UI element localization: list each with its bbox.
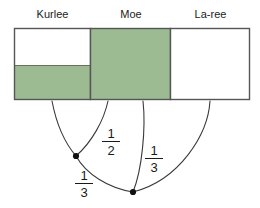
- kurlee-shaded-part: [15, 66, 91, 100]
- junction-node-left: [73, 153, 79, 159]
- fraction-divider-line: [75, 183, 93, 184]
- fraction-divider-line: [102, 141, 120, 142]
- fraction-denominator: 2: [101, 143, 121, 157]
- moe-shaded-part: [91, 29, 171, 100]
- bar-section-laree: [171, 29, 250, 100]
- fraction-denominator: 3: [74, 185, 94, 199]
- fraction-numerator: 1: [74, 169, 94, 183]
- junction-node-right: [130, 189, 136, 195]
- fraction-numerator: 1: [144, 144, 164, 158]
- bar-section-moe: [91, 29, 171, 100]
- curve-moe-right-to-node-right: [133, 101, 144, 192]
- fraction-numerator: 1: [101, 127, 121, 141]
- fraction-label-one-half: 1 2: [101, 127, 121, 157]
- curve-kurlee-to-node-left: [52, 101, 76, 156]
- fraction-label-one-third-left: 1 3: [74, 169, 94, 199]
- fraction-divider-line: [145, 158, 163, 159]
- laree-unshaded-part: [171, 29, 250, 100]
- bar-section-kurlee: [15, 29, 91, 100]
- kurlee-unshaded-part: [15, 29, 91, 66]
- fraction-denominator: 3: [144, 160, 164, 174]
- fraction-label-one-third-right: 1 3: [144, 144, 164, 174]
- bar-model-svg: [0, 0, 260, 208]
- fraction-bar-diagram: Kurlee Moe La-ree 1 2: [0, 0, 260, 208]
